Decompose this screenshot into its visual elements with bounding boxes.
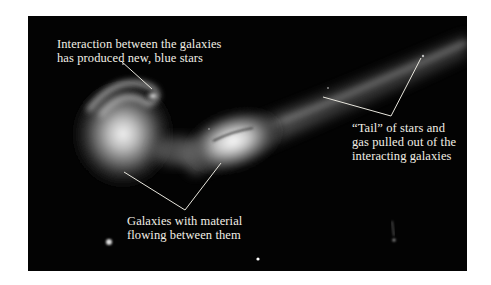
annotation-line: gas pulled out of the <box>352 135 456 149</box>
annotation-blue-stars: Interaction between the galaxies has pro… <box>57 37 222 65</box>
annotation-tidal-tail: “Tail” of stars and gas pulled out of th… <box>352 121 456 163</box>
annotation-material-flow: Galaxies with material flowing between t… <box>127 214 242 242</box>
annotation-line: “Tail” of stars and <box>352 121 456 135</box>
annotation-line: Galaxies with material <box>127 214 242 228</box>
annotation-line: has produced new, blue stars <box>57 51 222 65</box>
annotation-line: Interaction between the galaxies <box>57 37 222 51</box>
annotation-line: flowing between them <box>127 228 242 242</box>
annotation-line: interacting galaxies <box>352 149 456 163</box>
